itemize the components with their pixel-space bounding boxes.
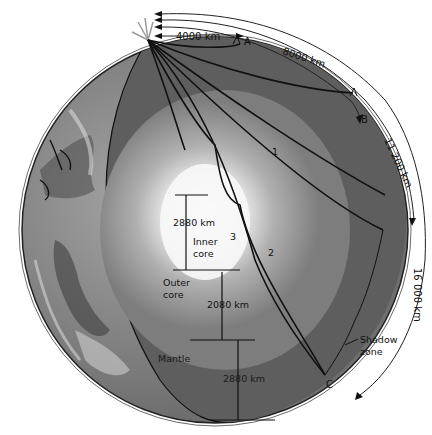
mantle-thickness: 2880 km xyxy=(223,373,265,384)
inner-core-thickness: 2880 km xyxy=(173,217,215,228)
outer-core-label-line2: core xyxy=(163,289,184,300)
distance-label-4000: 4000 km xyxy=(176,31,220,42)
outer-core-thickness: 2080 km xyxy=(207,299,249,310)
inner-core-label-line1: Inner xyxy=(193,236,218,247)
ray-label-1: 1 xyxy=(272,146,278,157)
inner-core-label-line2: core xyxy=(193,248,214,259)
outer-core-label-line1: Outer xyxy=(163,277,190,288)
shadow-zone-label-line2: zone xyxy=(360,346,383,357)
earth-seismic-diagram: 4000 km A 8000 km B 11 200 km 16 000 km … xyxy=(0,0,432,435)
station-c-label: C xyxy=(326,379,333,390)
mantle-label: Mantle xyxy=(158,353,190,364)
epicenter-burst-icon xyxy=(132,18,153,40)
ray-label-2: 2 xyxy=(268,247,274,258)
shadow-zone-label-line1: Shadow xyxy=(360,334,398,345)
distance-label-16000: 16 000 km xyxy=(412,268,423,322)
station-a-label: A xyxy=(244,36,251,47)
station-b-label: B xyxy=(361,114,368,125)
ray-label-3: 3 xyxy=(230,231,236,242)
